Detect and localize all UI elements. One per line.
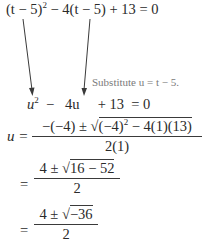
substituted-equation: u2 − 4u + 13 = 0 [27,96,150,113]
arrow-right-icon [82,19,91,96]
numerator: 4 ± √16 − 52 [34,160,120,177]
sqrt-icon: √ [62,206,70,222]
u-equals-label: u = [7,128,28,145]
fraction-bar [34,178,120,179]
radicand: (−4)2 − 4(1)(13) [99,117,192,134]
equals-sign: = [20,222,28,239]
arrow-left-icon [23,19,35,96]
denominator: 2(1) [32,138,202,155]
numerator: −(−4) ± √(−4)2 − 4(1)(13) [32,118,202,135]
denominator: 2 [34,180,120,197]
fraction-bar [32,136,202,137]
step-2-fraction: 4 ± √16 − 52 2 [34,160,120,197]
denominator: 2 [34,226,98,243]
remaining-terms: − 4u + 13 = 0 [39,96,151,112]
numerator: 4 ± √−36 [34,206,98,223]
u-variable: u = [7,128,28,144]
radicand: −36 [70,205,93,222]
fraction-bar [34,224,98,225]
equals-sign: = [20,176,28,193]
quadratic-formula-fraction: −(−4) ± √(−4)2 − 4(1)(13) 2(1) [32,118,202,155]
sqrt-icon: √ [62,160,70,176]
substitution-note: Substitute u = t − 5. [92,76,179,88]
radicand: 16 − 52 [70,159,114,176]
sqrt-icon: √ [91,118,99,134]
step-3-fraction: 4 ± √−36 2 [34,206,98,243]
